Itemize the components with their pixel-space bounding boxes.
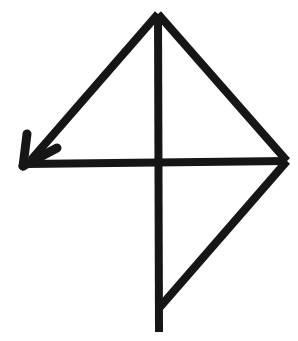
line-drawing-figure — [0, 0, 298, 341]
figure-canvas — [0, 0, 298, 341]
vertical-line — [158, 14, 159, 332]
horizontal-line — [26, 161, 287, 164]
figure-background — [0, 0, 298, 341]
